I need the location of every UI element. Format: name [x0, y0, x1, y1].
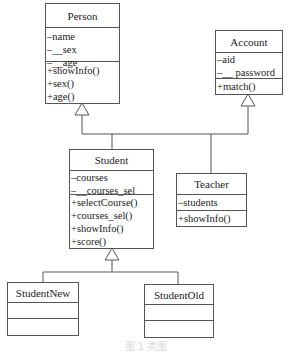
class-diagram: Person –name –__sex –__age +showInfo() +…	[0, 0, 292, 353]
attributes-section	[8, 303, 78, 319]
attributes-section: –name –__sex –__age	[46, 28, 119, 62]
method: +age()	[47, 90, 119, 103]
class-person[interactable]: Person –name –__sex –__age +showInfo() +…	[45, 3, 120, 104]
class-teacher[interactable]: Teacher –students +showInfo()	[176, 173, 247, 227]
methods-section: +match()	[216, 79, 282, 93]
method: +courses_sel()	[71, 209, 153, 222]
class-name: Person	[46, 4, 119, 28]
class-name: Teacher	[177, 174, 246, 195]
class-name: Student	[70, 150, 153, 171]
attribute: –name	[47, 30, 119, 43]
class-account[interactable]: Account –aid –__ password +match()	[215, 30, 283, 95]
methods-section: +selectCourse() +courses_sel() +showInfo…	[70, 195, 153, 248]
class-studentold[interactable]: StudentOld	[144, 284, 214, 338]
account-generalization-arrow	[241, 94, 255, 106]
method: +showInfo()	[47, 64, 119, 77]
attributes-section	[145, 305, 213, 321]
method: +selectCourse()	[71, 196, 153, 209]
method: +sex()	[47, 77, 119, 90]
person-generalization-arrow	[75, 103, 89, 115]
method: +showInfo()	[71, 222, 153, 235]
class-name: StudentOld	[145, 285, 213, 305]
method: +showInfo()	[178, 212, 246, 225]
class-student[interactable]: Student –courses –__courses_sel +selectC…	[69, 149, 154, 249]
attribute: –students	[178, 196, 246, 209]
student-generalization-arrow	[105, 248, 119, 260]
attribute: –courses	[71, 171, 153, 184]
class-name: StudentNew	[8, 283, 78, 303]
methods-section: +showInfo() +sex() +age()	[46, 62, 119, 103]
attributes-section: –students	[177, 195, 246, 211]
class-studentnew[interactable]: StudentNew	[7, 282, 79, 336]
method: +score()	[71, 235, 153, 248]
class-name: Account	[216, 31, 282, 53]
methods-section: +showInfo()	[177, 211, 246, 225]
attribute: –__ password	[217, 66, 282, 79]
attributes-section: –courses –__courses_sel	[70, 171, 153, 195]
attribute: –aid	[217, 53, 282, 66]
attributes-section: –aid –__ password	[216, 53, 282, 79]
figure-caption: 图 1 类图	[0, 338, 292, 353]
method: +match()	[217, 80, 282, 93]
attribute: –__sex	[47, 43, 119, 56]
person-tree-line	[82, 115, 248, 134]
